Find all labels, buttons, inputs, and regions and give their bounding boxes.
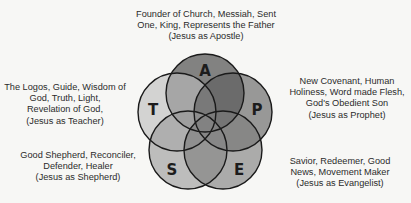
- venn-diagram: ATPSE: [0, 0, 411, 203]
- circle-letter-e: E: [234, 161, 244, 179]
- circle-letter-s: S: [167, 161, 178, 179]
- circle-letter-p: P: [252, 101, 263, 119]
- circle-letter-t: T: [148, 101, 159, 119]
- circle-letter-a: A: [199, 62, 211, 80]
